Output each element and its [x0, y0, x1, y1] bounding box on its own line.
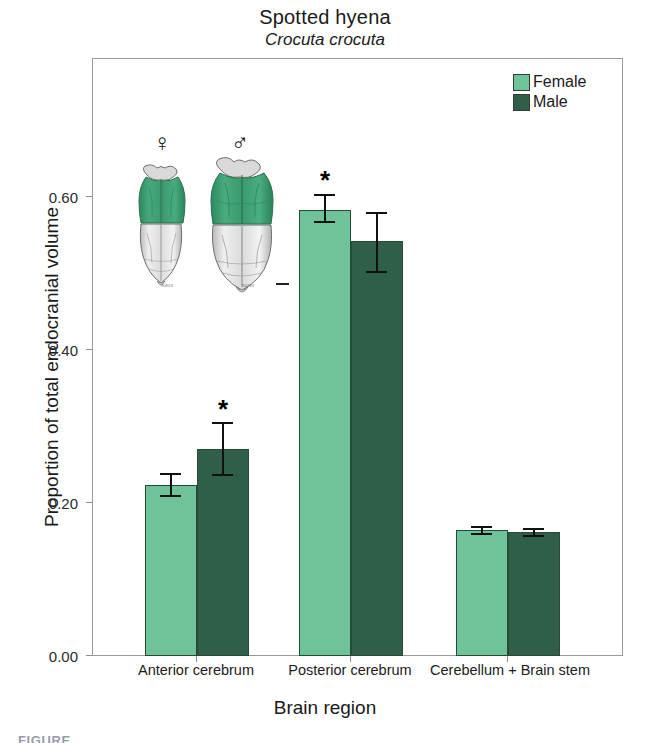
- bar-female-anterior-cerebrum[interactable]: [145, 485, 197, 656]
- errorbar-cap-bottom-male-cerebellum-brain-stem: [523, 535, 544, 537]
- errorbar-cap-bottom-male-anterior-cerebrum: [212, 474, 233, 476]
- figure-caption-sliver: FIGURE: [18, 733, 71, 743]
- errorbar-cap-bottom-female-posterior-cerebrum: [314, 221, 335, 223]
- legend-item-female[interactable]: Female: [513, 73, 586, 91]
- figure-panel: Spotted hyena Crocuta crocuta Proportion…: [0, 0, 650, 743]
- chart-subtitle: Crocuta crocuta: [0, 30, 650, 50]
- legend-swatch-male-icon: [513, 94, 530, 111]
- errorbar-cap-top-female-anterior-cerebrum: [160, 473, 181, 475]
- x-category-label-2: Cerebellum + Brain stem: [415, 662, 605, 678]
- significance-asterisk-posterior-cerebrum: *: [313, 167, 337, 193]
- legend-label-male: Male: [533, 93, 568, 111]
- errorbar-cap-top-male-posterior-cerebrum: [366, 212, 387, 214]
- errorbar-cap-top-male-cerebellum-brain-stem: [523, 528, 544, 530]
- y-tick-label-3: 0.60: [18, 189, 78, 206]
- scale-bar: [276, 283, 289, 285]
- errorbar-stem-female-anterior-cerebrum: [170, 474, 172, 496]
- errorbar-stem-male-posterior-cerebrum: [376, 213, 378, 272]
- bar-female-posterior-cerebrum[interactable]: [299, 210, 351, 656]
- bar-female-cerebellum-brain-stem[interactable]: [456, 530, 508, 656]
- plot-area: * * Female: [92, 58, 623, 656]
- male-endocast-image: [205, 157, 279, 297]
- bar-male-posterior-cerebrum[interactable]: [351, 241, 403, 656]
- female-endocast-image: [133, 163, 189, 291]
- legend-swatch-female-icon: [513, 74, 530, 91]
- y-tick-label-0: 0.00: [18, 648, 78, 665]
- errorbar-stem-male-anterior-cerebrum: [222, 423, 224, 475]
- y-tick-label-1: 0.20: [18, 495, 78, 512]
- errorbar-stem-female-posterior-cerebrum: [324, 195, 326, 222]
- y-tick-label-2: 0.40: [18, 342, 78, 359]
- errorbar-cap-bottom-female-anterior-cerebrum: [160, 495, 181, 497]
- male-specimen-id: 90284: [242, 283, 254, 288]
- chart-title: Spotted hyena: [0, 6, 650, 29]
- errorbar-cap-bottom-female-cerebellum-brain-stem: [471, 533, 492, 535]
- x-category-label-0: Anterior cerebrum: [116, 662, 276, 678]
- y-axis-label: Proportion of total endocranial volume: [41, 87, 63, 647]
- errorbar-cap-top-female-cerebellum-brain-stem: [471, 526, 492, 528]
- significance-asterisk-anterior-cerebrum: *: [211, 396, 235, 422]
- legend: Female Male: [513, 73, 586, 113]
- x-category-label-1: Posterior cerebrum: [268, 662, 432, 678]
- bar-male-anterior-cerebrum[interactable]: [197, 449, 249, 656]
- errorbar-cap-bottom-male-posterior-cerebrum: [366, 271, 387, 273]
- bar-male-cerebellum-brain-stem[interactable]: [508, 532, 560, 656]
- endocast-inset: ♀ ♂: [139, 131, 299, 326]
- x-axis-label: Brain region: [0, 697, 650, 719]
- legend-item-male[interactable]: Male: [513, 93, 586, 111]
- female-sex-symbol-icon: ♀: [147, 131, 177, 155]
- legend-label-female: Female: [533, 73, 586, 91]
- male-sex-symbol-icon: ♂: [225, 131, 255, 155]
- female-specimen-id: 90903: [161, 283, 173, 288]
